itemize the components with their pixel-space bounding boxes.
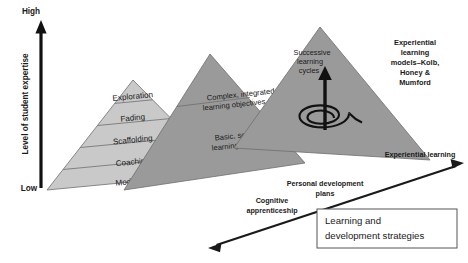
learning-and-development-strategies-box[interactable]: Learning and development strategies — [317, 209, 457, 248]
axis-labels: High Low Level of student expertise — [21, 7, 40, 193]
caption-personal-development-plans-line-1: Personal development — [287, 179, 364, 188]
up-arrow-icon — [35, 20, 46, 34]
pyramid-3-models-label-line-1: Experiential — [394, 38, 436, 47]
vertical-axis-arrow — [35, 20, 46, 188]
double-arrow-left-head — [208, 243, 222, 252]
pyramid-3-cycles-label-line-3: cycles — [299, 66, 320, 75]
pyramid-3-models-label-line-2: learning — [401, 48, 430, 57]
diagram-canvas: Exploration Fading Scaffolding Coaching … — [0, 0, 468, 263]
caption-experiential-learning: Experiential learning — [385, 150, 456, 159]
axis-low-label: Low — [21, 184, 38, 193]
axis-title: Level of student expertise — [21, 53, 30, 154]
pyramid-3-models-label-line-5: Mumford — [399, 78, 431, 87]
callout-box-line-1: Learning and — [325, 215, 381, 226]
pyramid-diagram-svg: Exploration Fading Scaffolding Coaching … — [0, 0, 468, 263]
caption-cognitive-apprenticeship-line-1: Cognitive — [256, 196, 289, 205]
axis-high-label: High — [22, 7, 40, 16]
pyramid-3-cycles-label-line-1: Successive — [294, 48, 331, 57]
caption-cognitive-apprenticeship-line-2: apprenticeship — [246, 206, 298, 215]
callout-box-line-2: development strategies — [325, 230, 424, 241]
caption-personal-development-plans-line-2: plans — [316, 189, 335, 198]
pyramid-3-models-label-line-3: models–Kolb, — [391, 58, 439, 67]
pyramid-3-cycles-label-line-2: learning — [297, 57, 323, 66]
pyramid-3-models-label-line-4: Honey & — [400, 68, 431, 77]
double-arrow-right-head — [451, 159, 465, 168]
